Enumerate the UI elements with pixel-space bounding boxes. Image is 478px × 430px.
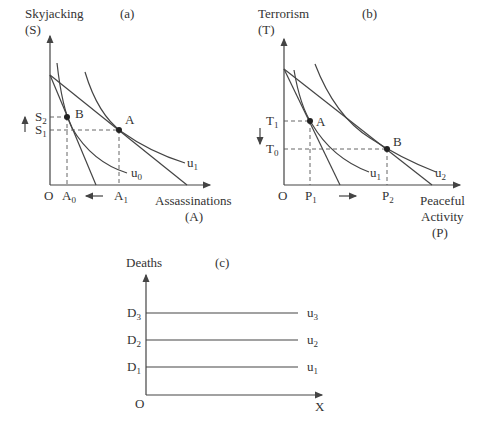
diagram-canvas: Skyjacking (S) (a) B A S2 S1 O A0 A1 u0 … (0, 0, 478, 430)
panel-a-indifference-curve-u1 (85, 72, 185, 163)
panel-c: Deaths (c) D3 D2 D1 u3 u2 u1 O X (126, 255, 325, 414)
panel-b-tick-t1: T1 (266, 113, 278, 130)
panel-a-tag: (a) (120, 6, 134, 21)
panel-b-point-a (307, 118, 313, 124)
panel-a-label-b: B (75, 106, 84, 121)
panel-a-label-a: A (125, 112, 135, 127)
panel-b-origin: O (278, 188, 287, 203)
panel-b-tag: (b) (362, 6, 377, 21)
panel-b-tick-p2: P2 (382, 188, 394, 205)
panel-a-tick-a0: A0 (62, 188, 76, 205)
panel-a-point-b (64, 114, 70, 120)
panel-b-ylabel-symbol: (T) (258, 22, 275, 37)
panel-c-tag: (c) (215, 255, 229, 270)
panel-a-xlabel-symbol: (A) (185, 209, 203, 224)
panel-b-curve-label-u2: u2 (435, 165, 446, 182)
panel-a-xlabel: Assassinations (155, 193, 232, 208)
panel-b-curve-label-u1: u1 (370, 165, 381, 182)
panel-a-point-a (116, 127, 122, 133)
panel-c-ylabel: Deaths (126, 255, 162, 270)
panel-b-tick-t0: T0 (266, 141, 279, 158)
panel-a-ylabel-symbol: (S) (25, 22, 41, 37)
panel-c-tick-d3: D3 (127, 305, 141, 322)
panel-b-xlabel-symbol: (P) (432, 225, 448, 240)
panel-c-tick-d2: D2 (127, 332, 141, 349)
panel-c-tick-d1: D1 (127, 359, 141, 376)
panel-c-curve-label-u3: u3 (307, 305, 319, 322)
panel-a: Skyjacking (S) (a) B A S2 S1 O A0 A1 u0 … (25, 6, 232, 224)
panel-c-curve-label-u2: u2 (307, 332, 318, 349)
panel-c-xlabel: X (315, 399, 325, 414)
panel-c-origin: O (135, 396, 144, 411)
panel-a-tick-a1: A1 (114, 188, 128, 205)
panel-b-indifference-curve-u2 (315, 64, 436, 172)
panel-b-tick-p1: P1 (305, 188, 317, 205)
panel-a-curve-label-u1: u1 (187, 155, 198, 172)
panel-b-budget-line-steep (284, 69, 340, 185)
panel-b-label-b: B (393, 134, 402, 149)
panel-a-origin: O (44, 188, 53, 203)
panel-a-ylabel: Skyjacking (25, 6, 84, 21)
panel-b-ylabel: Terrorism (258, 6, 309, 21)
panel-b: Terrorism (T) (b) A B T1 T0 O P1 P2 u1 u… (258, 6, 465, 240)
panel-b-xlabel-line2: Activity (421, 209, 464, 224)
panel-a-curve-label-u0: u0 (131, 165, 143, 182)
panel-b-label-a: A (316, 114, 326, 129)
panel-b-point-b (384, 146, 390, 152)
panel-c-curve-label-u1: u1 (307, 359, 318, 376)
panel-b-xlabel: Peaceful (420, 193, 465, 208)
